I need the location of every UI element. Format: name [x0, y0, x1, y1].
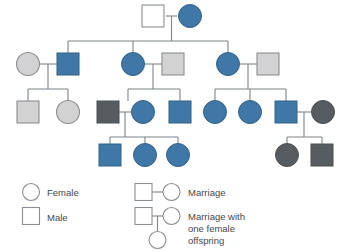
legend-offspring-male-icon	[135, 208, 152, 225]
pedigree-svg: Female Male Marriage Marriage with one f…	[0, 0, 347, 251]
generation-2-group	[17, 53, 287, 102]
individual-III-7-female-affected[interactable]	[239, 101, 262, 124]
individual-II-2-male-affected[interactable]	[57, 53, 79, 75]
legend-offspring-female-icon	[163, 208, 180, 225]
individual-III-4-female-affected[interactable]	[132, 101, 155, 124]
individual-IV-5-male-married-in[interactable]	[311, 144, 333, 166]
legend-female-icon	[23, 184, 40, 201]
individual-IV-1-male-affected[interactable]	[99, 144, 121, 166]
individual-IV-4-female-married-in[interactable]	[276, 144, 299, 167]
legend-group: Female Male Marriage Marriage with one f…	[23, 184, 246, 249]
legend-marriage-offspring-label-line1: Marriage with	[188, 211, 245, 222]
individual-II-5-female-affected[interactable]	[217, 53, 240, 76]
legend-marriage-female-icon	[163, 184, 180, 201]
pedigree-chart: Female Male Marriage Marriage with one f…	[0, 0, 347, 251]
individual-III-6-female-affected[interactable]	[204, 101, 227, 124]
individual-III-8-male-affected[interactable]	[275, 101, 297, 123]
individual-III-9-female-married-in[interactable]	[312, 101, 335, 124]
legend-female-label: Female	[47, 187, 79, 198]
individual-I-2-female-affected[interactable]	[179, 5, 202, 28]
legend-male-icon	[23, 208, 40, 225]
individual-III-3-male-married-in[interactable]	[97, 101, 119, 123]
legend-offspring-child-icon	[149, 232, 166, 249]
individual-III-2-female-unaffected[interactable]	[57, 101, 80, 124]
individual-I-1-male-unfilled[interactable]	[142, 5, 164, 27]
generation-3-group	[17, 101, 335, 145]
generation-1-group	[68, 5, 228, 54]
legend-male-label: Male	[47, 212, 68, 223]
individual-II-3-female-affected[interactable]	[122, 53, 145, 76]
individual-IV-3-female-affected[interactable]	[167, 144, 190, 167]
generation-4-group	[99, 144, 333, 167]
individual-IV-2-female-affected[interactable]	[134, 144, 157, 167]
legend-marriage-male-icon	[135, 184, 152, 201]
individual-II-4-male-unaffected[interactable]	[162, 53, 184, 75]
individual-II-6-male-unaffected[interactable]	[257, 53, 279, 75]
legend-marriage-offspring-label-line2: one female	[188, 223, 235, 234]
legend-marriage-offspring-label-line3: offspring	[188, 235, 224, 246]
individual-III-5-male-affected[interactable]	[169, 101, 191, 123]
individual-III-1-male-unaffected[interactable]	[17, 101, 39, 123]
individual-II-1-female-unaffected[interactable]	[17, 53, 40, 76]
legend-marriage-label: Marriage	[188, 187, 226, 198]
